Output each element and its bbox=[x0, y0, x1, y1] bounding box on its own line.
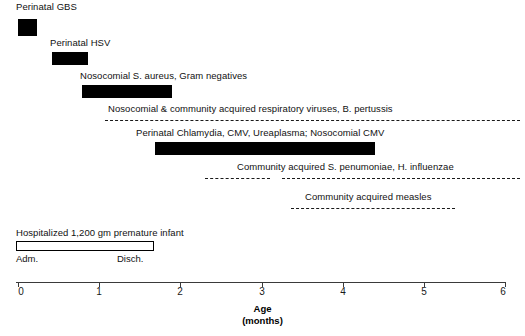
band-bar-solid bbox=[18, 19, 37, 36]
band-bar-open bbox=[16, 241, 154, 251]
x-axis-tick-label: 5 bbox=[421, 286, 427, 297]
band-bar-dashed bbox=[291, 208, 455, 209]
x-axis-tick-label: 2 bbox=[177, 286, 183, 297]
band-label: Hospitalized 1,200 gm premature infant bbox=[16, 227, 184, 238]
discharge-marker-label: Disch. bbox=[117, 253, 143, 264]
x-axis-tick-label: 0 bbox=[18, 286, 24, 297]
band-bar-dashed-segment bbox=[282, 178, 520, 179]
band-label: Community acquired S. penumoniae, H. inf… bbox=[237, 161, 454, 172]
band-bar-solid bbox=[155, 142, 375, 155]
x-axis-tick-label: 3 bbox=[259, 286, 265, 297]
admission-marker-label: Adm. bbox=[16, 253, 38, 264]
x-axis-line bbox=[16, 282, 506, 283]
band-label: Nosocomial S. aureus, Gram negatives bbox=[80, 70, 247, 81]
infection-timeline-chart: Perinatal GBS Perinatal HSV Nosocomial S… bbox=[0, 0, 525, 336]
band-bar-solid bbox=[52, 52, 88, 65]
band-bar-dashed-segment bbox=[205, 178, 270, 179]
band-bar-dashed bbox=[105, 120, 520, 121]
x-axis-title-line2: (months) bbox=[0, 315, 525, 327]
x-axis-title-line1: Age bbox=[0, 303, 525, 315]
band-label: Nosocomial & community acquired respirat… bbox=[108, 103, 393, 114]
band-bar-solid bbox=[82, 85, 172, 98]
band-label: Perinatal HSV bbox=[50, 37, 110, 48]
band-label: Perinatal Chlamydia, CMV, Ureaplasma; No… bbox=[136, 127, 384, 138]
band-label: Perinatal GBS bbox=[16, 1, 77, 12]
x-axis-tick-label: 1 bbox=[96, 286, 102, 297]
x-axis-tick-label: 6 bbox=[500, 286, 506, 297]
band-label: Community acquired measles bbox=[305, 191, 431, 202]
x-axis-title: Age (months) bbox=[0, 303, 525, 326]
x-axis-tick-label: 4 bbox=[340, 286, 346, 297]
